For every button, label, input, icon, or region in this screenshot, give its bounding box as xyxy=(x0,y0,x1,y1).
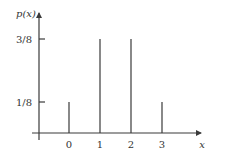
x-tick-label-3: 3 xyxy=(159,139,165,150)
x-axis-label: x xyxy=(199,139,205,150)
x-tick-label-0: 0 xyxy=(66,139,72,150)
x-tick-label-1: 1 xyxy=(97,139,103,150)
y-tick-label-low: 1/8 xyxy=(16,97,32,108)
probability-stem-chart: p(x) 3/8 1/8 0 1 2 3 x xyxy=(0,0,226,156)
x-tick-label-2: 2 xyxy=(128,139,134,150)
y-axis-label: p(x) xyxy=(16,8,36,19)
y-tick-label-high: 3/8 xyxy=(16,34,32,45)
